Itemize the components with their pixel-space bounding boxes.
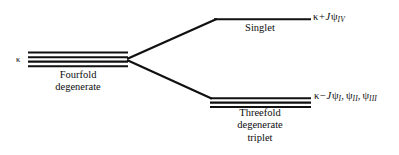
triplet-coupling-constant: J [326, 90, 331, 101]
singlet-state-label: κ+J ψIV [313, 11, 345, 25]
triplet-wavefunction-separator-1: , [341, 90, 344, 101]
fourfold-degenerate-caption: Fourfold degenerate [26, 69, 130, 94]
singlet-caption: Singlet [208, 22, 312, 34]
singlet-coupling-constant: J [325, 11, 330, 22]
triplet-caption-line-3: triplet [206, 132, 314, 144]
upper-branch-connector [128, 19, 216, 58]
singlet-wavefunction-symbol: ψ [331, 11, 338, 22]
triplet-wavefunction-subscript-3: III [369, 94, 377, 103]
triplet-state-label: κ−J ψI, ψII, ψIII [314, 90, 377, 104]
triplet-wavefunction-separator-2: , [358, 90, 361, 101]
energy-level-diagram: κ Fourfold degenerate Singlet κ+J ψIV Th… [0, 0, 399, 155]
branch-connector-group [128, 19, 216, 98]
lower-branch-connector [128, 61, 211, 99]
triplet-level-group [210, 98, 311, 107]
fourfold-caption-line-2: degenerate [26, 81, 130, 93]
triplet-wavefunction-symbol-2: ψ [346, 90, 353, 101]
triplet-wavefunction-symbol-1: ψ [332, 90, 339, 101]
triplet-caption-line-2: degenerate [206, 119, 314, 131]
fourfold-caption-line-1: Fourfold [26, 69, 130, 81]
ground-level-kappa-label: κ [16, 54, 20, 64]
singlet-wavefunction-subscript: IV [338, 15, 345, 24]
triplet-caption-line-1: Threefold [206, 107, 314, 119]
threefold-degenerate-triplet-caption: Threefold degenerate triplet [206, 107, 314, 144]
fourfold-level-group [28, 53, 128, 67]
